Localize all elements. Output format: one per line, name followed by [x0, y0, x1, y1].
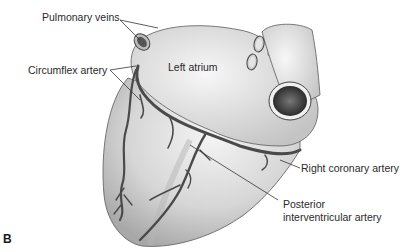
heart-diagram: Pulmonary veins Circumflex artery Left a…	[0, 0, 410, 252]
label-pulmonary-veins: Pulmonary veins	[42, 11, 120, 23]
panel-letter: B	[3, 232, 12, 246]
label-circumflex-artery: Circumflex artery	[28, 64, 107, 76]
label-posterior-interventricular-line2: interventricular artery	[283, 211, 382, 223]
label-posterior-interventricular-line1: Posterior	[283, 198, 325, 210]
label-right-coronary-artery: Right coronary artery	[301, 162, 399, 174]
label-left-atrium: Left atrium	[168, 61, 218, 73]
